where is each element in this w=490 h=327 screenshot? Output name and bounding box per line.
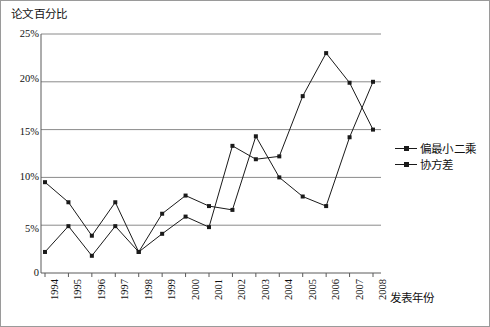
x-tick-label: 2003 (260, 279, 271, 300)
y-tick-label: 5% (3, 224, 39, 234)
data-point-marker (371, 128, 375, 132)
legend-label: 协方差 (420, 156, 454, 172)
y-axis-tick-labels: 25% 20% 15% 10% 5% 0 (1, 1, 39, 327)
legend-item: 偏最小二乘 (395, 140, 489, 156)
data-point-marker (277, 175, 281, 179)
x-tick-label: 1997 (119, 279, 130, 300)
x-tick-label: 2000 (190, 279, 201, 300)
x-tick-label: 2006 (330, 279, 341, 300)
y-tick-label: 0 (3, 268, 39, 278)
data-point-marker (230, 144, 234, 148)
chart-figure: 论文百分比 25% 20% 15% 10% 5% 0 1994199519961… (0, 0, 490, 327)
chart-canvas (41, 34, 381, 273)
data-point-marker (137, 250, 141, 254)
x-tick-label: 2002 (236, 279, 247, 300)
legend-line-marker-icon (395, 159, 417, 169)
chart-legend: 偏最小二乘 协方差 (395, 140, 489, 172)
x-tick-label: 1994 (49, 279, 60, 300)
data-point-marker (66, 224, 70, 228)
plot-area (41, 34, 381, 273)
x-tick-label: 2008 (377, 279, 388, 300)
x-tick-label: 1998 (143, 279, 154, 300)
y-tick-label: 20% (3, 74, 39, 84)
x-tick-label: 1995 (72, 279, 83, 300)
data-point-marker (277, 154, 281, 158)
data-point-marker (113, 200, 117, 204)
data-point-marker (43, 250, 47, 254)
data-point-marker (207, 225, 211, 229)
data-point-marker (230, 208, 234, 212)
y-tick-label: 25% (3, 29, 39, 39)
data-point-marker (160, 232, 164, 236)
data-point-marker (66, 200, 70, 204)
data-point-marker (43, 180, 47, 184)
x-axis-title: 发表年份 (390, 289, 434, 305)
data-point-marker (160, 212, 164, 216)
x-tick-label: 2004 (283, 279, 294, 300)
x-tick-label: 2001 (213, 279, 224, 300)
data-point-marker (90, 234, 94, 238)
data-point-marker (324, 51, 328, 55)
data-point-marker (113, 224, 117, 228)
data-point-marker (184, 215, 188, 219)
data-point-marker (324, 204, 328, 208)
data-point-marker (254, 157, 258, 161)
x-axis-tick-labels: 1994199519961997199819992000200120022003… (41, 273, 381, 323)
data-point-marker (207, 204, 211, 208)
y-tick-label: 10% (3, 172, 39, 182)
legend-label: 偏最小二乘 (420, 140, 476, 156)
x-tick-label: 2007 (354, 279, 365, 300)
data-point-marker (348, 81, 352, 85)
data-point-marker (90, 254, 94, 258)
legend-item: 协方差 (395, 156, 489, 172)
x-tick-label: 2005 (307, 279, 318, 300)
legend-line-marker-icon (395, 143, 417, 153)
data-point-marker (301, 94, 305, 98)
y-tick-label: 15% (3, 127, 39, 137)
data-point-marker (348, 135, 352, 139)
data-point-marker (371, 80, 375, 84)
x-tick-label: 1999 (166, 279, 177, 300)
data-point-marker (184, 194, 188, 198)
data-point-marker (301, 195, 305, 199)
data-point-marker (254, 134, 258, 138)
x-tick-label: 1996 (96, 279, 107, 300)
